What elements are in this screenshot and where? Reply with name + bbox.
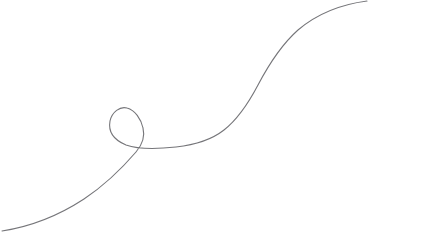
drawing-canvas (0, 0, 426, 252)
canvas-background (0, 0, 426, 252)
line-drawing-svg (0, 0, 426, 252)
